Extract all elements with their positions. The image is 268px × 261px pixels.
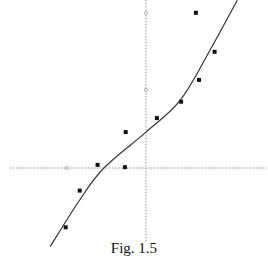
y-tick-mark (144, 88, 147, 91)
data-point (123, 165, 127, 169)
y-tick-mark (144, 11, 147, 14)
data-point (96, 163, 100, 167)
data-point (194, 11, 198, 15)
data-point (155, 116, 159, 120)
data-point (124, 130, 128, 134)
scatter-chart (0, 0, 268, 261)
data-point (213, 50, 217, 54)
data-point (64, 225, 68, 229)
axis-ticks (66, 11, 148, 169)
x-tick-mark (66, 167, 69, 170)
data-points (64, 11, 217, 230)
axes (10, 0, 266, 243)
data-point (179, 100, 183, 104)
data-point (78, 189, 82, 193)
figure-caption: Fig. 1.5 (0, 240, 268, 257)
fit-curve (50, 0, 237, 247)
data-point (197, 78, 201, 82)
